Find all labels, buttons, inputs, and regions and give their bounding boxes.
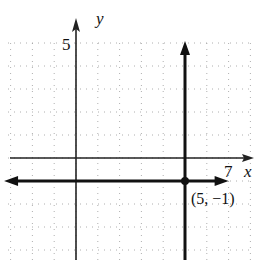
- y-tick-label-5: 5: [62, 35, 71, 54]
- axes: [10, 18, 254, 260]
- coordinate-plane: x y 7 5 (5, −1): [0, 0, 260, 260]
- point-label: (5, −1): [191, 190, 235, 208]
- grid: [8, 43, 250, 260]
- labels: x y 7 5 (5, −1): [62, 9, 252, 208]
- left-arrow-icon: [4, 176, 18, 186]
- y-axis-label: y: [94, 9, 104, 28]
- x-axis-label: x: [243, 162, 252, 181]
- point-5-minus-1: [181, 177, 189, 185]
- points: [181, 177, 189, 185]
- x-tick-label-7: 7: [224, 162, 233, 181]
